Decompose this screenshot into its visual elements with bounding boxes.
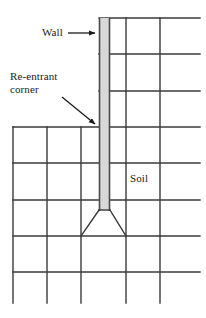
soil-label: Soil [130,172,148,185]
reentrant-corner-label-line1: Re-entrant [10,70,57,82]
wedge-right-splay [110,210,126,236]
wall-base-wedge [81,210,126,236]
wall-label: Wall [42,26,63,39]
wall-element [99,18,110,211]
wedge-left-splay [81,210,99,236]
mesh-diagram-svg [0,0,206,318]
annotation-arrows [62,33,95,124]
reentrant-corner-label-line2: corner [10,83,39,95]
mesh-vertical-lines [13,18,160,303]
diagram-canvas: Wall Re-entrantcorner Soil [0,0,206,318]
reentrant-corner-label: Re-entrantcorner [10,70,57,96]
reentrant-arrow-line [62,97,95,124]
wall-fill [99,18,110,210]
